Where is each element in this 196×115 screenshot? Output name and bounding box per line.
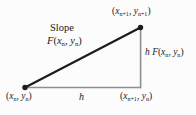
- paren-close: ): [149, 91, 152, 101]
- x-subscript: n: [62, 40, 65, 47]
- h-variable: h: [79, 91, 84, 102]
- hypotenuse-slope-line: [25, 28, 141, 88]
- y-subscript: n: [75, 40, 78, 47]
- x-variable: x: [57, 35, 62, 46]
- paren-close: ): [147, 6, 150, 16]
- label-bottom-left-point: (xn, yn): [6, 92, 32, 102]
- y-subscript: n: [25, 96, 28, 102]
- euler-step-diagram: (xn+1, yn+1) Slope F(xn, yn) h F(xn, yn)…: [0, 0, 196, 115]
- label-vertical-leg: h F(xn, yn): [145, 48, 184, 58]
- left-vertex-dot: [22, 85, 27, 90]
- paren-close: ): [78, 35, 82, 46]
- x-subscript: n: [13, 96, 16, 102]
- label-slope-word: Slope: [50, 23, 74, 34]
- x-subscript: n: [165, 52, 168, 58]
- label-top-right-point: (xn+1, yn+1): [112, 7, 151, 17]
- paren-close: ): [180, 47, 183, 57]
- x-subscript: n+1: [127, 96, 137, 102]
- label-bottom-right-point: (xn+1, yn): [120, 92, 152, 102]
- y-subscript: n: [177, 52, 180, 58]
- top-right-vertex-dot: [138, 25, 143, 30]
- paren-close: ): [28, 91, 31, 101]
- y-subscript: n: [146, 96, 149, 102]
- label-horizontal-leg: h: [79, 92, 84, 102]
- x-subscript: n+1: [119, 11, 129, 17]
- y-subscript: n+1: [138, 11, 148, 17]
- label-slope-function: F(xn, yn): [47, 36, 82, 47]
